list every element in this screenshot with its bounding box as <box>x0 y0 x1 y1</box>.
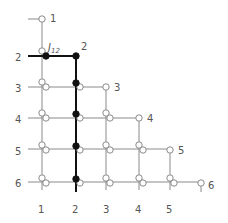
svg-text:1: 1 <box>38 204 44 215</box>
highlighted-path <box>28 56 76 192</box>
svg-text:2: 2 <box>72 204 78 215</box>
svg-text:2: 2 <box>81 41 87 52</box>
svg-text:4: 4 <box>147 113 153 124</box>
svg-text:3: 3 <box>103 204 109 215</box>
column-labels: 1 2 3 4 5 <box>38 204 172 215</box>
svg-text:1: 1 <box>50 13 56 24</box>
svg-text:5: 5 <box>15 146 21 157</box>
open-nodes <box>39 16 204 186</box>
svg-text:3: 3 <box>15 83 21 94</box>
svg-text:3: 3 <box>114 82 120 93</box>
horizontal-lines <box>28 19 201 182</box>
svg-text:5: 5 <box>166 204 172 215</box>
svg-text:4: 4 <box>15 114 21 125</box>
vertical-lines <box>42 19 201 192</box>
svg-text:4: 4 <box>135 204 141 215</box>
grid-diagram: 2 3 4 5 6 1 2 3 4 5 6 1 2 3 4 5 J12 <box>0 0 228 223</box>
svg-text:6: 6 <box>15 178 21 189</box>
row-labels: 2 3 4 5 6 <box>15 52 21 189</box>
svg-text:6: 6 <box>208 180 214 191</box>
svg-text:2: 2 <box>15 52 21 63</box>
svg-text:5: 5 <box>178 145 184 156</box>
diagonal-labels: 1 2 3 4 5 6 <box>50 13 214 191</box>
